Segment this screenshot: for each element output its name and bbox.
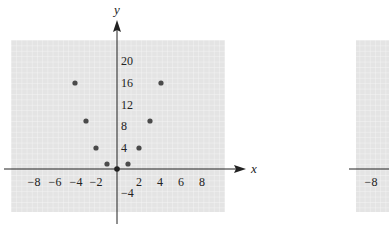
y-tick: 20 — [121, 54, 133, 68]
y-tick: 4 — [121, 141, 127, 155]
data-point — [147, 118, 152, 123]
data-point — [93, 145, 98, 150]
data-point — [83, 118, 88, 123]
x-tick: −4 — [70, 175, 83, 189]
grid-background — [11, 40, 225, 212]
x-tick: −8 — [28, 175, 41, 189]
data-point — [125, 161, 130, 166]
x-tick: 2 — [136, 175, 142, 189]
y-tick: 16 — [121, 76, 133, 90]
y-tick: 8 — [121, 119, 127, 133]
x-tick: 4 — [157, 175, 163, 189]
data-point — [158, 80, 163, 85]
y-tick: −4 — [121, 186, 134, 200]
data-point — [72, 80, 77, 85]
data-point — [114, 166, 120, 172]
data-point — [104, 161, 109, 166]
x-tick: 8 — [199, 175, 205, 189]
x-tick: 6 — [178, 175, 184, 189]
x-axis-label: x — [250, 161, 257, 176]
x-tick: −2 — [90, 175, 103, 189]
panel2-x-tick: −8 — [365, 175, 378, 189]
x-tick: −6 — [49, 175, 62, 189]
chart-canvas: x y −8 −6 −4 −2 2 4 6 8 −4 4 8 12 16 20 … — [0, 0, 389, 231]
y-tick: 12 — [121, 98, 133, 112]
data-point — [136, 145, 141, 150]
y-axis-label: y — [112, 2, 120, 17]
